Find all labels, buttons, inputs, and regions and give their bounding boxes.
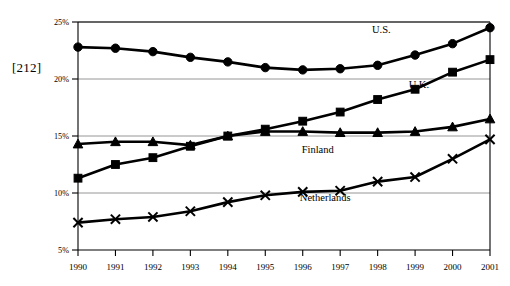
data-point-marker-circle	[299, 66, 307, 74]
line-chart: 5%10%15%20%25%19901991199219931994199519…	[0, 0, 510, 286]
x-tick-label: 2000	[444, 262, 463, 272]
x-tick-label: 1992	[144, 262, 162, 272]
data-point-marker-square	[336, 108, 344, 116]
series-line-netherlands	[78, 139, 490, 222]
y-tick-label: 10%	[54, 189, 69, 198]
data-point-marker-circle	[486, 24, 494, 32]
x-tick-label: 1998	[369, 262, 388, 272]
data-point-marker-circle	[448, 39, 456, 47]
data-point-marker-circle	[411, 51, 419, 59]
data-point-marker-circle	[186, 53, 194, 61]
data-point-marker-circle	[74, 43, 82, 51]
data-point-marker-circle	[111, 44, 119, 52]
figure-container: [212] 5%10%15%20%25%19901991199219931994…	[0, 0, 510, 286]
series-line-finland	[78, 119, 490, 145]
data-point-marker-square	[449, 68, 457, 76]
series-label-uk: U.K.	[409, 79, 429, 90]
data-point-marker-square	[299, 117, 307, 125]
y-tick-label: 25%	[54, 18, 69, 27]
data-point-marker-square	[486, 56, 494, 64]
series-label-us: U.S.	[372, 24, 391, 35]
data-point-marker-square	[149, 154, 157, 162]
series-line-uk	[78, 60, 490, 179]
series-label-finland: Finland	[302, 144, 335, 155]
x-tick-label: 1999	[406, 262, 425, 272]
y-tick-label: 15%	[54, 132, 69, 141]
x-tick-label: 1990	[69, 262, 88, 272]
series-label-netherlands: Netherlands	[300, 192, 351, 203]
data-point-marker-square	[74, 174, 82, 182]
x-tick-label: 1996	[294, 262, 313, 272]
data-point-marker-circle	[224, 58, 232, 66]
data-point-marker-circle	[373, 61, 381, 69]
x-tick-label: 1994	[219, 262, 238, 272]
data-point-marker-square	[374, 96, 382, 104]
x-tick-label: 2001	[481, 262, 499, 272]
x-tick-label: 1995	[256, 262, 275, 272]
y-tick-label: 20%	[54, 75, 69, 84]
series-line-us	[78, 28, 490, 70]
data-point-marker-square	[112, 161, 120, 169]
data-point-marker-circle	[336, 65, 344, 73]
x-tick-label: 1991	[106, 262, 124, 272]
data-point-marker-circle	[149, 47, 157, 55]
x-tick-label: 1993	[181, 262, 200, 272]
data-point-marker-circle	[261, 63, 269, 71]
x-tick-label: 1997	[331, 262, 350, 272]
y-tick-label: 5%	[58, 246, 69, 255]
